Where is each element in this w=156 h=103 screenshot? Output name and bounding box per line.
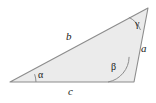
triangle-body: [10, 8, 148, 82]
angle-label-gamma: γ: [135, 19, 139, 29]
triangle-svg: [0, 0, 156, 103]
angle-label-beta: β: [111, 62, 116, 72]
triangle-diagram: b c a α β γ: [0, 0, 156, 103]
side-label-b: b: [66, 31, 72, 42]
side-label-c: c: [68, 86, 73, 97]
side-label-a: a: [141, 43, 147, 54]
angle-label-alpha: α: [38, 70, 43, 80]
